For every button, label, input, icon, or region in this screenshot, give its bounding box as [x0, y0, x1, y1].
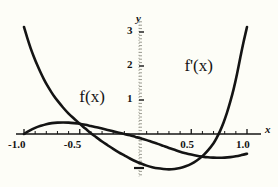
curve-f-prime-of-x [24, 27, 247, 169]
y-tick-label: 3 [127, 24, 133, 36]
x-tick-label: -1.0 [8, 138, 25, 150]
curve-label-f-prime: f'(x) [184, 56, 213, 76]
plot-graphics [0, 0, 278, 187]
y-tick-label: 1 [127, 92, 133, 104]
x-tick-label: -0.5 [64, 138, 81, 150]
x-axis-ticks [24, 129, 247, 134]
y-axis-label: y [136, 12, 141, 24]
x-tick-label: 0.5 [180, 138, 194, 150]
y-tick-label: 2 [127, 58, 133, 70]
y-axis-ticks [134, 22, 144, 175]
x-axis-label: x [265, 123, 271, 135]
curve-f-of-x [24, 122, 247, 157]
x-tick-label: 1.0 [236, 138, 250, 150]
plot-canvas: y x f(x) f'(x) -1.0-0.50.51.0123 [0, 0, 278, 187]
curve-label-f: f(x) [79, 87, 104, 107]
